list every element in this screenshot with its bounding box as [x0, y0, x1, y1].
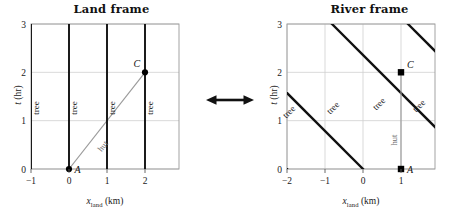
river-x-axis-unit: (km): [361, 196, 379, 206]
river-frame-plot: tree tree tree tree hut A C 0 1 2 3: [256, 0, 461, 219]
svg-text:0: 0: [361, 176, 366, 186]
svg-text:−2: −2: [282, 176, 292, 186]
land-event-c-marker: [142, 69, 148, 75]
panel-river-frame: River frame: [256, 0, 461, 219]
svg-text:tree: tree: [411, 98, 428, 115]
land-y-axis-var: t: [13, 102, 23, 105]
svg-text:tree: tree: [325, 100, 342, 117]
svg-text:0: 0: [21, 165, 26, 175]
svg-text:1: 1: [399, 176, 404, 186]
svg-text:tree: tree: [31, 101, 41, 115]
svg-text:tree: tree: [281, 104, 298, 121]
land-x-ticks: −1 0 1 2: [26, 176, 148, 186]
river-y-axis-unit: (hr): [269, 85, 279, 99]
river-x-axis-sub: land: [347, 201, 359, 208]
frame-equivalence-double-arrow-icon: [203, 88, 257, 112]
river-x-tickmarks: [287, 169, 401, 173]
river-y-axis-var: t: [269, 102, 279, 105]
svg-text:tree: tree: [145, 101, 155, 115]
svg-text:0: 0: [277, 165, 282, 175]
svg-text:3: 3: [277, 20, 282, 30]
land-tree-labels: tree tree tree tree: [31, 101, 155, 115]
river-plot-frame: [287, 24, 435, 169]
land-tree-worldlines: [31, 24, 145, 169]
svg-text:tree: tree: [69, 101, 79, 115]
river-x-ticks: −2 −1 0 1: [282, 176, 404, 186]
svg-text:1: 1: [105, 176, 110, 186]
land-x-tickmarks: [31, 169, 145, 173]
svg-text:tree: tree: [371, 96, 388, 113]
land-hut-label: hut: [95, 138, 110, 153]
river-gridlines: [287, 24, 435, 169]
land-x-axis-sub: land: [91, 201, 103, 208]
svg-text:0: 0: [67, 176, 72, 186]
river-event-a-label: A: [406, 164, 414, 175]
svg-text:−1: −1: [26, 176, 36, 186]
land-y-axis-label: t (hr): [13, 72, 23, 118]
svg-text:tree: tree: [107, 101, 117, 115]
svg-text:2: 2: [143, 176, 148, 186]
river-hut-label: hut: [389, 134, 399, 146]
panel-land-frame: Land frame: [0, 0, 205, 219]
land-frame-plot: tree tree tree tree hut A C 0 1 2 3: [0, 0, 205, 219]
land-event-a-label: A: [74, 164, 82, 175]
river-y-axis-label: t (hr): [269, 72, 279, 118]
river-event-c-marker: [398, 69, 404, 75]
svg-text:−1: −1: [320, 176, 330, 186]
land-y-axis-unit: (hr): [13, 85, 23, 99]
river-event-c-label: C: [407, 59, 414, 70]
land-x-axis-label: xland (km): [31, 196, 179, 208]
river-x-axis-label: xland (km): [287, 196, 435, 208]
land-event-c-label: C: [134, 58, 141, 69]
svg-text:3: 3: [21, 20, 26, 30]
land-x-axis-unit: (km): [105, 196, 123, 206]
spacetime-figure: Land frame: [0, 0, 466, 219]
